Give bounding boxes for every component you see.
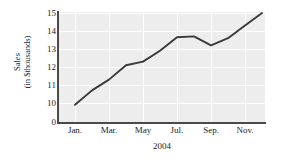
y-tick-label: 10 (30, 99, 56, 108)
y-tick-label: 11 (30, 81, 56, 90)
x-tick-label: Jan. (68, 126, 82, 135)
y-tick-label: 15 (30, 9, 56, 18)
y-tick-label: 14 (30, 27, 56, 36)
y-tick-label: 13 (30, 45, 56, 54)
y-axis-tick-labels: 15 14 13 12 11 10 0 (30, 0, 56, 168)
x-tick-label: May (135, 126, 152, 135)
sales-line-chart: Sales (in $thousands) 15 14 13 12 11 10 … (0, 0, 283, 168)
x-tick-label: Jul. (171, 126, 184, 135)
x-axis-line (57, 122, 266, 124)
x-axis-tick-labels: Jan. Mar. May Jul. Sep. Nov. (0, 126, 283, 142)
y-axis-title-line1: Sales (12, 54, 22, 72)
x-axis-title-text: 2004 (153, 141, 171, 151)
x-tick-label: Nov. (236, 126, 253, 135)
x-tick-label: Sep. (203, 126, 219, 135)
x-tick-label: Mar. (101, 126, 118, 135)
data-series-layer (59, 12, 265, 122)
y-tick-label: 12 (30, 63, 56, 72)
sales-line-series (75, 13, 262, 105)
